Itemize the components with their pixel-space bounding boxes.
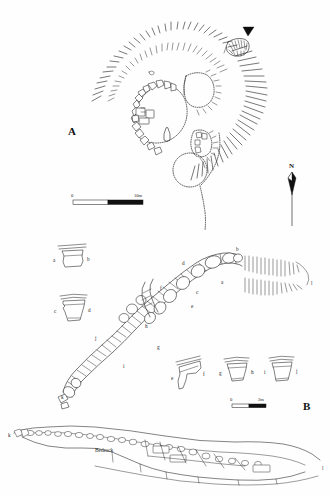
panel-c-cross-section: Bedrock k l xyxy=(8,426,324,485)
structure-large-c-enclosure xyxy=(131,80,187,155)
scale-a-zero: 0 xyxy=(71,193,74,198)
panel-b-letter: B xyxy=(303,400,311,412)
wall-large-stones xyxy=(58,252,243,409)
wall-east-hachure xyxy=(245,256,302,295)
profile-section-ef: e f xyxy=(171,356,205,389)
profile-label-j: j xyxy=(295,368,297,374)
profile-section-gh: g h xyxy=(219,357,254,381)
structure-lower-right-oval xyxy=(191,130,218,161)
section-stones xyxy=(14,429,270,472)
wall-marker-k: k xyxy=(61,394,64,400)
feature-teardrop xyxy=(164,128,171,142)
section-ground-surface xyxy=(14,426,320,460)
wall-marker-g: g xyxy=(157,344,160,350)
section-bedrock-outline xyxy=(22,437,305,480)
wall-marker-j: j xyxy=(94,335,96,341)
panel-a-site-plan: A 0 10m N xyxy=(68,22,296,230)
enclosure-arc-east xyxy=(201,133,220,185)
archaeological-figure: A 0 10m N xyxy=(0,0,330,495)
wall-marker-l: l xyxy=(311,280,313,286)
scale-b-zero: 0 xyxy=(230,397,233,402)
panel-b-wall-plan: a b c d e f g h i j k l a b xyxy=(53,244,313,412)
slope-hachure-inner xyxy=(108,43,227,101)
panel-a-letter: A xyxy=(68,125,76,137)
bedrock-label: Bedrock xyxy=(95,447,114,453)
profile-label-h: h xyxy=(251,369,254,375)
slope-hachure-east xyxy=(191,46,267,180)
wall-inner-face xyxy=(72,263,242,397)
profile-label-g: g xyxy=(219,370,222,376)
profile-section-cd: c d xyxy=(54,294,91,321)
profile-label-e: e xyxy=(171,375,174,381)
entrance-pointer-icon xyxy=(243,27,254,36)
wall-marker-c: c xyxy=(196,289,199,295)
wall-marker-i: i xyxy=(123,363,125,369)
profile-section-ab: a b xyxy=(53,244,90,267)
profile-section-ij: i j xyxy=(264,356,297,381)
scale-b-max: 2m xyxy=(258,397,264,402)
panel-a-scale-bar: 0 10m xyxy=(71,193,143,204)
wall-east-edge xyxy=(296,262,309,285)
feature-upper-enclosure xyxy=(224,38,249,56)
figure-sheet: A 0 10m N xyxy=(0,0,330,495)
profile-label-d: d xyxy=(88,307,91,313)
north-arrow-label: N xyxy=(289,162,294,170)
wall-marker-h: h xyxy=(145,323,148,329)
feature-small-mark xyxy=(149,71,154,75)
profile-label-a: a xyxy=(53,257,56,263)
structure-lower-circle xyxy=(173,153,207,187)
profile-label-b: b xyxy=(87,256,90,262)
profile-label-c: c xyxy=(54,308,57,314)
section-end-l: l xyxy=(322,465,324,471)
scale-a-max: 10m xyxy=(134,193,143,198)
section-lower-boundary xyxy=(95,466,318,485)
wall-marker-b: b xyxy=(236,246,239,252)
slope-hachure-outer xyxy=(92,22,237,101)
north-arrow: N xyxy=(288,162,296,226)
enclosure-tail xyxy=(200,186,206,230)
wall-marker-f: f xyxy=(160,285,162,291)
section-bedrock-ticks xyxy=(112,452,277,485)
profile-label-i: i xyxy=(264,369,266,375)
wall-marker-a: a xyxy=(221,279,224,285)
panel-b-scale-bar: 0 2m xyxy=(230,397,266,408)
profile-label-f: f xyxy=(203,371,205,377)
wall-marker-d: d xyxy=(182,260,185,266)
structure-upper-right-oval xyxy=(184,70,221,115)
wall-marker-e: e xyxy=(191,303,194,309)
section-end-k: k xyxy=(8,432,11,438)
